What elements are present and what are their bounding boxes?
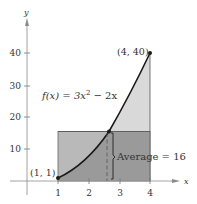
- function-label: f(x) = 3x2 − 2x: [41, 89, 117, 101]
- y-tick-label-20: 20: [10, 112, 22, 122]
- x-tick-label-1: 1: [55, 188, 61, 198]
- average-label: Average = 16: [116, 151, 186, 162]
- end-point: [148, 51, 152, 55]
- mean-value-figure: 1 2 3 4 10 20 30 40 x y (1, 1) (4, 40) A…: [0, 0, 197, 204]
- end-point-label: (4, 40): [117, 46, 149, 57]
- x-tick-label-2: 2: [86, 188, 92, 198]
- function-label-main: f(x) = 3x: [41, 90, 86, 101]
- y-tick-label-10: 10: [10, 144, 22, 154]
- start-point: [56, 176, 60, 180]
- y-tick-label-30: 30: [10, 81, 22, 91]
- y-axis-arrow-icon: [25, 18, 29, 26]
- y-axis-label: y: [23, 8, 29, 17]
- x-axis-label: x: [184, 177, 189, 186]
- y-tick-label-40: 40: [10, 48, 22, 58]
- function-label-rest: − 2x: [90, 90, 117, 101]
- start-point-label: (1, 1): [30, 167, 56, 178]
- x-tick-label-3: 3: [117, 188, 123, 198]
- mean-value-point: [107, 130, 111, 134]
- x-axis-arrow-icon: [172, 179, 180, 183]
- x-tick-label-4: 4: [147, 188, 153, 198]
